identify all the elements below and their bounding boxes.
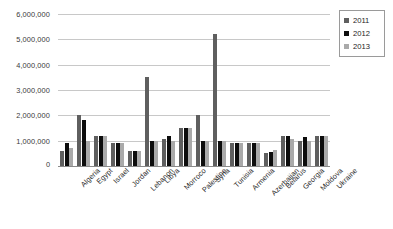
bar	[213, 34, 217, 166]
bar	[188, 128, 192, 166]
bar-group	[92, 14, 109, 166]
bar	[111, 143, 115, 166]
bar	[150, 141, 154, 166]
bar	[256, 143, 260, 166]
bar	[120, 143, 124, 166]
y-axis-zero-label: 0	[0, 160, 54, 169]
bar	[315, 136, 319, 166]
y-axis-tick-label: 4,000,000	[16, 60, 50, 69]
bar	[69, 148, 73, 166]
bar	[179, 128, 183, 166]
y-axis-tick-label: 6,000,000	[16, 10, 50, 19]
bar	[281, 136, 285, 166]
bar	[235, 143, 239, 166]
bar	[137, 151, 141, 166]
legend-item[interactable]: 2013	[344, 40, 381, 53]
bar	[82, 120, 86, 166]
bar	[205, 141, 209, 166]
y-axis-tick-label: 5,000,000	[16, 35, 50, 44]
bar	[298, 141, 302, 166]
legend-swatch-2013-icon	[344, 44, 349, 49]
bar	[103, 136, 107, 166]
legend-item-label: 2011	[353, 17, 369, 25]
bar	[303, 137, 307, 166]
x-axis-category-labels: AlgeriaEgyptIsraelJordanLebanonLibyaMorr…	[58, 166, 330, 229]
bar	[65, 143, 69, 166]
bar	[307, 141, 311, 166]
legend-swatch-2011-icon	[344, 18, 349, 23]
bar	[218, 141, 222, 166]
chart-legend: 201120122013	[339, 10, 385, 57]
y-axis-tick-label: 2,000,000	[16, 111, 50, 120]
bar-group	[194, 14, 211, 166]
y-axis-tick-label: 3,000,000	[16, 86, 50, 95]
bar	[154, 141, 158, 166]
bar	[230, 143, 234, 166]
bar	[320, 136, 324, 166]
bar-group	[279, 14, 296, 166]
bar	[167, 136, 171, 166]
bar	[269, 152, 273, 166]
bars-layer	[58, 14, 330, 166]
legend-item[interactable]: 2012	[344, 27, 381, 40]
bar-group	[58, 14, 75, 166]
bar	[60, 151, 64, 166]
bar	[286, 136, 290, 166]
bar-group	[109, 14, 126, 166]
legend-item-label: 2012	[353, 30, 370, 38]
bar-group	[75, 14, 92, 166]
bar	[128, 151, 132, 166]
x-axis-tick-label: Israel	[111, 166, 130, 185]
bar-chart: 6,000,0005,000,0004,000,0003,000,0002,00…	[0, 0, 393, 229]
bar-group	[313, 14, 330, 166]
bar	[133, 151, 137, 166]
legend-swatch-2012-icon	[344, 31, 349, 36]
bar	[99, 136, 103, 166]
bar-group	[126, 14, 143, 166]
bar-group	[228, 14, 245, 166]
plot-area	[58, 14, 330, 166]
bar	[273, 150, 277, 166]
bar	[196, 115, 200, 166]
legend-item[interactable]: 2011	[344, 14, 381, 27]
bar-group	[211, 14, 228, 166]
bar	[162, 139, 166, 166]
bar	[77, 115, 81, 166]
y-axis-tick-label: 1,000,000	[16, 136, 50, 145]
bar	[264, 153, 268, 166]
bar	[201, 141, 205, 166]
bar-group	[177, 14, 194, 166]
bar	[86, 141, 90, 166]
bar	[222, 141, 226, 166]
bar	[116, 143, 120, 166]
bar-group	[296, 14, 313, 166]
y-axis-tick-labels: 6,000,0005,000,0004,000,0003,000,0002,00…	[0, 14, 54, 166]
bar	[247, 143, 251, 166]
bar	[290, 139, 294, 166]
bar	[171, 141, 175, 166]
bar	[184, 128, 188, 166]
bar	[145, 77, 149, 166]
legend-item-label: 2013	[353, 43, 370, 51]
bar	[324, 136, 328, 166]
bar	[239, 143, 243, 166]
bar-group	[143, 14, 160, 166]
bar	[252, 143, 256, 166]
bar-group	[245, 14, 262, 166]
bar-group	[160, 14, 177, 166]
bar	[94, 136, 98, 166]
bar-group	[262, 14, 279, 166]
